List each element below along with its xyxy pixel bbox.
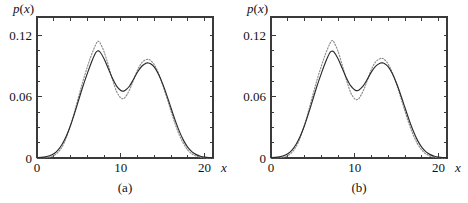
- y-tick-label: 0.12: [243, 28, 266, 43]
- plot-frame: [271, 17, 447, 158]
- x-tick-label: 0: [34, 160, 41, 175]
- curve-solid: [37, 51, 213, 158]
- x-axis-label: x: [220, 160, 227, 175]
- curve-dotted: [271, 40, 447, 158]
- y-tick-label: 0.12: [9, 28, 32, 43]
- chart-panel-a: 0102000.060.12p(x)x(a): [0, 0, 234, 203]
- y-tick-label: 0.06: [243, 89, 266, 104]
- y-tick-label: 0.06: [9, 89, 32, 104]
- chart-svg-a: 0102000.060.12p(x)x(a): [0, 0, 234, 203]
- y-axis-label: p(x): [246, 1, 268, 16]
- plot-a: 0102000.060.12p(x)x(a): [9, 1, 227, 195]
- x-tick-label: 10: [114, 160, 127, 175]
- panel-caption: (b): [351, 180, 366, 195]
- y-tick-label: 0: [26, 151, 33, 166]
- x-tick-label: 10: [348, 160, 361, 175]
- curve-dotted: [37, 41, 213, 158]
- y-axis-label-paren2: ): [30, 1, 34, 16]
- x-tick-label: 20: [432, 160, 445, 175]
- y-tick-label: 0: [260, 151, 267, 166]
- curve-solid: [271, 51, 447, 158]
- chart-svg-b: 0102000.060.12p(x)x(b): [234, 0, 468, 203]
- panel-caption: (a): [118, 180, 132, 195]
- x-axis-label: x: [454, 160, 461, 175]
- x-tick-label: 20: [198, 160, 211, 175]
- y-axis-label: p(x): [12, 1, 34, 16]
- y-axis-label-paren2: ): [264, 1, 268, 16]
- plot-frame: [37, 17, 213, 158]
- plot-b: 0102000.060.12p(x)x(b): [243, 1, 461, 195]
- x-tick-label: 0: [268, 160, 275, 175]
- figure-container: 0102000.060.12p(x)x(a) 0102000.060.12p(x…: [0, 0, 468, 203]
- chart-panel-b: 0102000.060.12p(x)x(b): [234, 0, 468, 203]
